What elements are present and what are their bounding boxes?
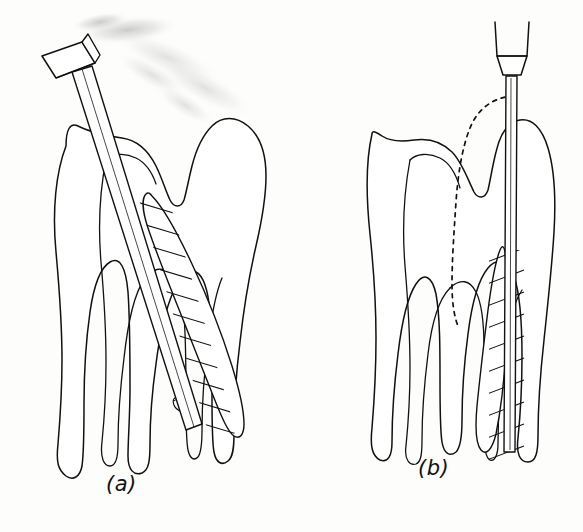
figure-container: (a) (b) — [0, 0, 583, 532]
handpiece-collar-b — [497, 56, 527, 75]
dental-illustration-svg — [0, 0, 583, 532]
